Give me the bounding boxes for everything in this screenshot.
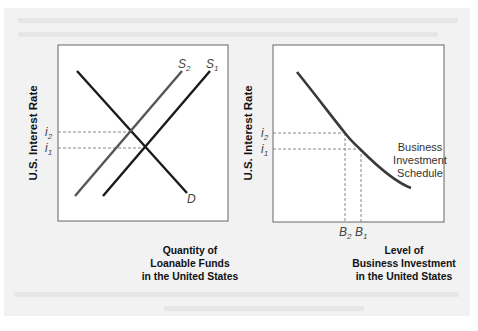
left-y-axis-label: U.S. Interest Rate: [27, 85, 39, 180]
right-x-axis-label: Level of Business Investment in the Unit…: [341, 244, 467, 283]
x-label-line: Quantity of: [127, 244, 253, 257]
business-investment-panel: i2 i1 B2 B1 Business Investment Schedule…: [242, 45, 447, 241]
i1-tick-label: i1: [261, 142, 268, 158]
i2-tick-label: i2: [45, 125, 53, 141]
schedule-label-line: Schedule: [397, 167, 443, 179]
b2-tick-label: B2: [339, 225, 352, 241]
x-label-line: in the United States: [127, 270, 253, 283]
i1-tick-label: i1: [45, 141, 52, 157]
left-plot-frame: [58, 45, 228, 221]
x-label-line: Business Investment: [341, 257, 467, 270]
loanable-funds-panel: S2 S1 D i2 i1 U.S. Interest Rate: [27, 45, 228, 221]
demand-label: D: [187, 192, 196, 206]
x-label-line: Loanable Funds: [127, 257, 253, 270]
schedule-label-line: Business: [398, 141, 443, 153]
schedule-label-line: Investment: [393, 154, 447, 166]
b1-tick-label: B1: [355, 225, 367, 241]
right-y-axis-label: U.S. Interest Rate: [242, 85, 254, 180]
x-label-line: Level of: [341, 244, 467, 257]
left-x-axis-label: Quantity of Loanable Funds in the United…: [127, 244, 253, 283]
x-label-line: in the United States: [341, 270, 467, 283]
schedule-label: Business Investment Schedule: [393, 141, 447, 179]
i2-tick-label: i2: [261, 126, 269, 142]
